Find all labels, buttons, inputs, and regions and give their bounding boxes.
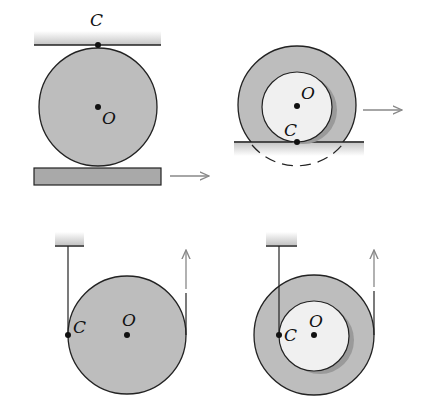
label-o: O <box>301 83 315 103</box>
center-point-o <box>124 332 130 338</box>
contact-point-c <box>65 332 71 338</box>
center-point-o <box>95 104 101 110</box>
label-c: C <box>284 120 297 140</box>
label-o: O <box>309 311 323 331</box>
center-point-o <box>311 332 317 338</box>
panel-disk-unwinding-string: C O <box>55 232 186 394</box>
label-c: C <box>73 317 86 337</box>
label-o: O <box>102 108 116 128</box>
diagram-canvas: C O O C C O <box>0 0 423 418</box>
label-c: C <box>284 325 297 345</box>
panel-disk-between-plates: C O <box>34 10 209 185</box>
panel-spool-unwinding-string: C O <box>254 232 374 395</box>
bottom-plate <box>34 168 161 185</box>
ceiling-support <box>266 232 297 245</box>
ceiling-support <box>55 232 84 245</box>
label-o: O <box>122 310 136 330</box>
contact-point-c <box>276 332 282 338</box>
contact-point-c <box>95 42 101 48</box>
panel-wheel-rolling-on-ground: O C <box>234 46 402 166</box>
label-c: C <box>90 10 103 30</box>
center-point-o <box>294 103 300 109</box>
